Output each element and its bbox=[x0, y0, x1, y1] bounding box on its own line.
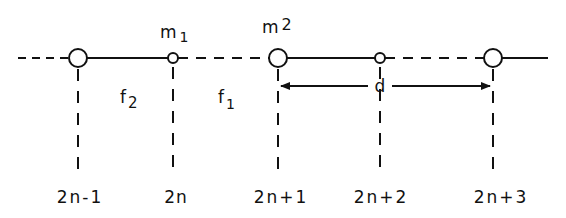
atom-large bbox=[484, 49, 502, 67]
atom-small bbox=[168, 53, 178, 63]
atom-large bbox=[269, 49, 287, 67]
site-label: 2n+2 bbox=[354, 187, 409, 207]
distance-label-d: d bbox=[375, 76, 386, 96]
atom-large bbox=[69, 49, 87, 67]
site-label: 2n-1 bbox=[57, 187, 104, 207]
diagram-canvas: m1 m2 f2 f1 d 2n-1 2n 2n+1 2n+2 2n+3 bbox=[0, 0, 566, 218]
site-label: 2n+3 bbox=[474, 187, 529, 207]
spring-label-f1: f1 bbox=[218, 87, 235, 112]
site-guides bbox=[78, 67, 493, 175]
mass-label-m1: m1 bbox=[160, 22, 188, 45]
site-label: 2n+1 bbox=[254, 187, 309, 207]
site-label: 2n bbox=[164, 187, 188, 207]
site-index-labels: 2n-1 2n 2n+1 2n+2 2n+3 bbox=[57, 187, 529, 207]
atom-small bbox=[375, 53, 385, 63]
diatomic-chain-diagram: m1 m2 f2 f1 d 2n-1 2n 2n+1 2n+2 2n+3 bbox=[0, 0, 566, 218]
spring-label-f2: f2 bbox=[120, 87, 138, 112]
mass-label-m2: m2 bbox=[262, 15, 292, 37]
